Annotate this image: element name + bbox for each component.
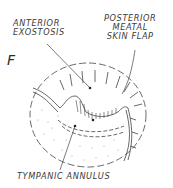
figure-letter: F (7, 52, 15, 68)
leader-anterior-exostosis (47, 44, 90, 88)
label-posterior-meatal-skin-flap: POSTERIOR MEATAL SKIN FLAP (104, 14, 156, 41)
label-line: SKIN FLAP (104, 32, 156, 41)
annulus-arc (58, 120, 124, 132)
leader-tympanic-annulus (60, 126, 75, 170)
label-anterior-exostosis: ANTERIOR EXOSTOSIS (13, 19, 65, 37)
label-line: EXOSTOSIS (13, 28, 65, 37)
label-tympanic-annulus: TYMPANIC ANNULUS (17, 172, 110, 181)
leader-posterior-skin-flap (122, 50, 135, 94)
skin-flap-contour (33, 88, 132, 160)
